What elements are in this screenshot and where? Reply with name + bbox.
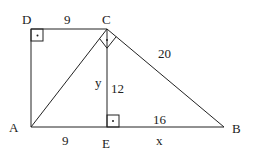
length-label-y: y (95, 75, 102, 90)
point-label-A: A (9, 120, 19, 135)
right-angle-dot-D (37, 35, 39, 37)
length-label-CE: 12 (111, 81, 124, 96)
point-label-C: C (102, 12, 111, 27)
length-label-AE: 9 (62, 133, 69, 148)
length-label-x: x (156, 133, 163, 148)
geometry-diagram: D C A E B 9 20 y 12 9 16 x (0, 0, 256, 155)
length-label-DC: 9 (64, 12, 71, 27)
length-label-EB: 16 (153, 112, 167, 127)
right-angle-dot-C (106, 39, 108, 41)
point-label-D: D (22, 12, 31, 27)
right-angle-dot-E (112, 120, 114, 122)
length-label-CB: 20 (158, 46, 171, 61)
point-label-B: B (232, 121, 241, 136)
right-angle-marker-C (100, 37, 117, 49)
point-label-E: E (102, 136, 110, 151)
